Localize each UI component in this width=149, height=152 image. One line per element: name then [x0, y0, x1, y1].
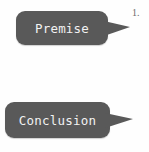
- conclusion-speech-bubble[interactable]: Conclusion: [5, 102, 110, 138]
- argument-diagram-canvas: 1. Premise Conclusion: [0, 0, 149, 152]
- premise-bubble-label: Premise: [16, 11, 108, 45]
- conclusion-bubble-label: Conclusion: [5, 102, 110, 138]
- premise-speech-bubble[interactable]: Premise: [16, 11, 108, 45]
- list-marker: 1.: [132, 7, 140, 19]
